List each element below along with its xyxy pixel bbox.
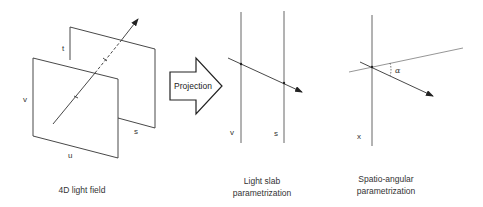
slab-intersection-s [283, 82, 285, 84]
caption-spatio-angular-line2: parametrization [357, 186, 416, 196]
slab-intersection-v [240, 63, 242, 65]
projection-arrow: Projection [170, 58, 222, 114]
spatio-label-x: x [357, 132, 361, 141]
label-s: s [134, 127, 138, 136]
alpha-label: α [395, 66, 401, 75]
light-slab-panel: v s Light slab parametrization [228, 11, 302, 198]
spatio-angular-panel: α x Spatio-angular parametrization [349, 15, 463, 196]
label-t: t [62, 44, 65, 53]
caption-spatio-angular-line1: Spatio-angular [358, 174, 413, 184]
caption-light-slab-line1: Light slab [244, 176, 281, 186]
reference-line [349, 48, 463, 72]
label-u: u [68, 151, 72, 160]
light-field-panel: t v s u 4D light field [23, 19, 155, 195]
caption-light-slab-line2: parametrization [233, 188, 292, 198]
spatio-intersection [371, 66, 373, 68]
caption-4d-light-field: 4D light field [59, 185, 106, 195]
slab-label-s: s [274, 129, 278, 138]
diagram-canvas: t v s u 4D light field Projection v s Li… [0, 0, 483, 207]
front-plane-uv [33, 58, 118, 158]
ray-exit-segment [120, 19, 138, 42]
ray-dashed-segment [95, 42, 120, 73]
slab-ray [228, 58, 302, 92]
slab-label-v: v [230, 128, 234, 137]
light-field-diagram: t v s u 4D light field Projection v s Li… [0, 0, 483, 207]
label-v: v [23, 95, 27, 104]
angle-arc [390, 63, 391, 76]
projection-label: Projection [174, 81, 212, 91]
